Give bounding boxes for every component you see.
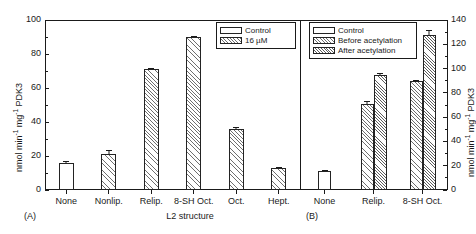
right-axis-tick-label: 80 (451, 87, 475, 97)
legend-label: Before acetylation (338, 37, 402, 45)
x-axis-tick (66, 190, 67, 194)
bar (374, 75, 387, 190)
error-bar (426, 30, 432, 35)
error-bar (364, 101, 370, 103)
error-bar (63, 161, 69, 162)
left-axis-tick-label: 60 (8, 82, 41, 92)
error-bar (413, 80, 419, 81)
x-axis-tick (108, 190, 109, 194)
panel-a-tag: (A) (24, 211, 36, 221)
right-axis-tick-label: 40 (451, 135, 475, 145)
left-major-tick (45, 190, 49, 191)
left-axis-tick-label: 80 (8, 48, 41, 58)
right-axis-tick-label: 120 (451, 38, 475, 48)
right-minor-tick (445, 105, 448, 106)
right-major-tick (443, 117, 447, 118)
right-minor-tick (445, 129, 448, 130)
right-major-tick (443, 190, 447, 191)
x-axis-tick (324, 190, 325, 194)
right-axis-spine (447, 20, 448, 190)
left-major-tick (45, 88, 49, 89)
left-axis-tick-label: 100 (8, 14, 41, 24)
y-axis-title-right-part2: mg (466, 120, 476, 135)
legend-swatch (220, 27, 242, 34)
left-minor-tick (45, 71, 48, 72)
left-major-tick (45, 122, 49, 123)
error-bar (191, 36, 197, 37)
panel-divider (300, 20, 301, 190)
bar (229, 129, 244, 190)
bar (101, 154, 116, 190)
left-axis-tick-label: 40 (8, 116, 41, 126)
x-axis-tick (278, 190, 279, 194)
legend-item: Control (313, 26, 413, 35)
right-minor-tick (445, 56, 448, 57)
right-minor-tick (445, 80, 448, 81)
x-axis-tick (151, 190, 152, 194)
right-major-tick (443, 68, 447, 69)
x-axis-tick (422, 190, 423, 194)
y-axis-title-left-sup1: -1 (12, 130, 19, 136)
right-axis-tick-label: 140 (451, 14, 475, 24)
legend-panel-a: Control16 µM (216, 22, 296, 49)
legend-label: 16 µM (245, 37, 267, 45)
right-major-tick (443, 141, 447, 142)
left-major-tick (45, 54, 49, 55)
left-minor-tick (45, 173, 48, 174)
legend-item: 16 µM (220, 36, 292, 45)
bar (144, 69, 159, 190)
legend-item: Before acetylation (313, 36, 413, 45)
legend-label: Control (338, 27, 364, 35)
panel-b-tag: (B) (306, 211, 318, 221)
x-axis-tick (373, 190, 374, 194)
right-axis-tick-label: 100 (451, 63, 475, 73)
bar (59, 163, 74, 190)
right-minor-tick (445, 153, 448, 154)
right-minor-tick (445, 32, 448, 33)
right-major-tick (443, 44, 447, 45)
left-axis-tick-label: 0 (8, 184, 41, 194)
right-axis-tick-label: 20 (451, 160, 475, 170)
legend-label: After acetylation (338, 47, 395, 55)
error-bar (106, 150, 112, 154)
error-bar (322, 170, 328, 171)
error-bar (377, 73, 383, 74)
x-axis-title: L2 structure (135, 211, 245, 221)
legend-swatch (313, 27, 335, 34)
error-bar (276, 167, 282, 168)
left-axis-tick-label: 20 (8, 150, 41, 160)
bar (186, 37, 201, 190)
bar (271, 168, 286, 190)
bar (423, 35, 436, 190)
legend-label: Control (245, 27, 271, 35)
legend-item: Control (220, 26, 292, 35)
legend-swatch (313, 47, 335, 54)
right-axis-tick-label: 60 (451, 111, 475, 121)
x-axis-tick (236, 190, 237, 194)
bar (361, 104, 374, 190)
legend-swatch (313, 37, 335, 44)
right-axis-tick-label: 0 (451, 184, 475, 194)
right-major-tick (443, 20, 447, 21)
right-major-tick (443, 165, 447, 166)
left-major-tick (45, 156, 49, 157)
legend-panel-b: ControlBefore acetylationAfter acetylati… (309, 22, 417, 59)
x-axis-tick (193, 190, 194, 194)
bar (318, 171, 331, 190)
left-minor-tick (45, 37, 48, 38)
bar (410, 81, 423, 190)
legend-swatch (220, 37, 242, 44)
legend-item: After acetylation (313, 46, 413, 55)
x-axis-tick-label: 8-SH Oct. (393, 196, 453, 206)
error-bar (233, 127, 239, 128)
right-major-tick (443, 92, 447, 93)
left-minor-tick (45, 105, 48, 106)
left-major-tick (45, 20, 49, 21)
error-bar (148, 68, 154, 69)
left-minor-tick (45, 139, 48, 140)
y-axis-title-left-sup2: -1 (12, 109, 19, 115)
right-minor-tick (445, 177, 448, 178)
